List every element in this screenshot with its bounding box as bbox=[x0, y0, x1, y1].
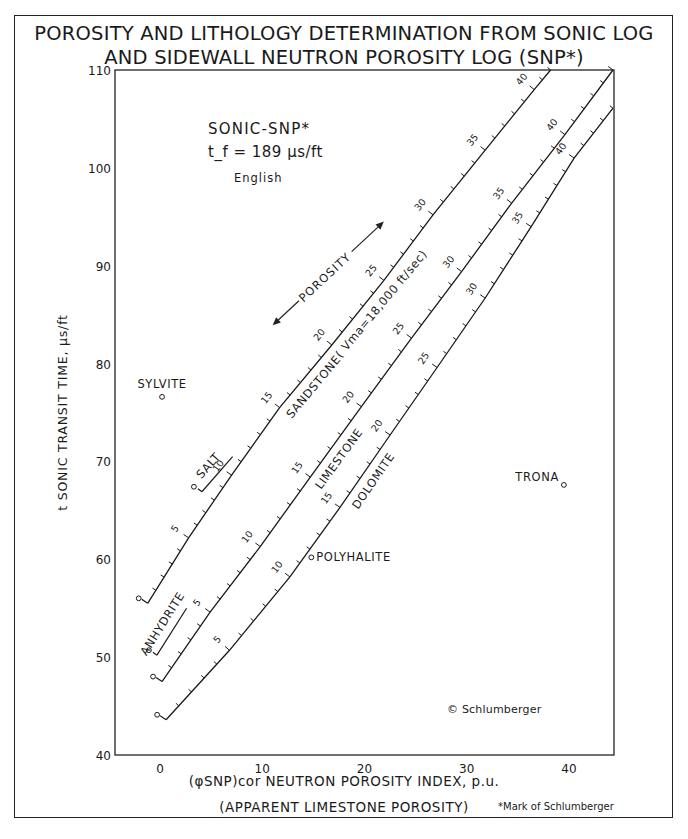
porosity-major-tick bbox=[480, 295, 485, 298]
porosity-major-tick bbox=[205, 609, 210, 613]
porosity-minor-tick bbox=[415, 392, 418, 394]
porosity-minor-tick bbox=[307, 547, 310, 549]
mineral-salt: SALT bbox=[192, 449, 233, 491]
porosity-major-tick bbox=[457, 268, 462, 272]
zero-porosity-foot bbox=[142, 599, 148, 603]
porosity-minor-tick bbox=[554, 183, 557, 185]
mineral-segment-foot bbox=[153, 652, 157, 655]
porosity-tick-label: 35 bbox=[464, 132, 480, 148]
porosity-minor-tick bbox=[511, 111, 514, 114]
porosity-minor-tick bbox=[406, 406, 409, 408]
curve-dolomite: 510152025303540DOLOMITE bbox=[155, 106, 613, 720]
curve-line-limestone bbox=[162, 70, 613, 682]
porosity-minor-tick bbox=[378, 377, 381, 379]
porosity-minor-tick bbox=[348, 418, 351, 420]
porosity-minor-tick bbox=[498, 214, 501, 216]
porosity-minor-tick bbox=[317, 461, 320, 463]
porosity-tick-label: 10 bbox=[269, 559, 285, 575]
porosity-minor-tick bbox=[545, 197, 548, 199]
porosity-minor-tick bbox=[451, 186, 454, 189]
porosity-minor-tick bbox=[448, 282, 451, 284]
porosity-minor-tick bbox=[267, 530, 270, 532]
porosity-minor-tick bbox=[377, 447, 380, 449]
porosity-arrow-label: POROSITY bbox=[296, 250, 354, 305]
porosity-minor-tick bbox=[410, 239, 413, 241]
porosity-minor-tick bbox=[398, 349, 401, 351]
porosity-minor-tick bbox=[194, 523, 197, 525]
porosity-tick-label: 20 bbox=[311, 326, 327, 342]
y-axis-title: t SONIC TRANSIT TIME, μs/ft bbox=[55, 314, 70, 511]
porosity-major-tick bbox=[480, 146, 485, 150]
porosity-minor-tick bbox=[492, 136, 495, 139]
porosity-major-tick bbox=[428, 211, 433, 215]
porosity-minor-tick bbox=[317, 533, 320, 535]
porosity-minor-tick bbox=[239, 633, 242, 636]
porosity-minor-tick bbox=[360, 304, 363, 307]
porosity-minor-tick bbox=[600, 81, 603, 83]
porosity-minor-tick bbox=[610, 106, 613, 108]
porosity-major-tick bbox=[335, 504, 340, 507]
porosity-major-tick bbox=[184, 534, 189, 537]
porosity-arrow-right-shaft bbox=[352, 224, 381, 251]
porosity-minor-tick bbox=[440, 199, 443, 202]
chart-svg: 405060708090100110t SONIC TRANSIT TIME, … bbox=[0, 0, 688, 839]
porosity-minor-tick bbox=[247, 557, 250, 559]
porosity-minor-tick bbox=[237, 570, 240, 572]
mineral-point-marker bbox=[160, 394, 165, 399]
porosity-major-tick bbox=[385, 432, 390, 435]
x-axis-title-text: (φSNP)cor NEUTRON POROSITY INDEX, p.u. bbox=[189, 773, 500, 789]
curve-label-sandstone: SANDSTONE bbox=[283, 352, 343, 420]
porosity-tick-label: 15 bbox=[258, 389, 274, 405]
porosity-minor-tick bbox=[472, 310, 475, 312]
porosity-major-tick bbox=[526, 223, 531, 226]
porosity-minor-tick bbox=[424, 379, 427, 381]
porosity-minor-tick bbox=[536, 211, 539, 213]
porosity-minor-tick bbox=[472, 161, 475, 164]
porosity-minor-tick bbox=[581, 106, 584, 108]
porosity-minor-tick bbox=[338, 432, 341, 434]
y-tick-label: 50 bbox=[96, 651, 111, 665]
porosity-minor-tick bbox=[297, 380, 300, 383]
mineral-point-label: POLYHALITE bbox=[316, 550, 391, 564]
porosity-tick-label: 35 bbox=[509, 210, 525, 226]
porosity-minor-tick bbox=[327, 519, 330, 521]
porosity-minor-tick bbox=[217, 597, 220, 599]
porosity-minor-tick bbox=[367, 462, 370, 464]
mineral-segment-foot bbox=[198, 489, 202, 492]
porosity-tick-label: 40 bbox=[544, 116, 560, 132]
porosity-minor-tick bbox=[357, 476, 360, 478]
porosity-major-tick bbox=[507, 199, 512, 203]
zero-porosity-foot bbox=[156, 678, 162, 682]
y-tick-label: 100 bbox=[88, 162, 111, 176]
porosity-minor-tick bbox=[350, 317, 353, 320]
porosity-minor-tick bbox=[238, 459, 241, 461]
porosity-minor-tick bbox=[540, 160, 543, 162]
porosity-minor-tick bbox=[308, 367, 311, 370]
porosity-tick-label: 25 bbox=[416, 350, 432, 366]
fluid-transit-label: t_f = 189 μs/ft bbox=[208, 143, 323, 162]
units-label: English bbox=[234, 171, 283, 185]
porosity-minor-tick bbox=[248, 446, 251, 448]
porosity-minor-tick bbox=[368, 391, 371, 393]
porosity-major-tick bbox=[357, 403, 362, 407]
y-tick-label: 40 bbox=[96, 749, 111, 763]
porosity-major-tick bbox=[432, 364, 437, 367]
porosity-major-tick bbox=[305, 474, 310, 478]
porosity-tick-label: 25 bbox=[390, 320, 406, 336]
porosity-arrow-left-shaft bbox=[276, 301, 299, 323]
porosity-minor-tick bbox=[176, 703, 179, 706]
porosity-minor-tick bbox=[388, 363, 391, 365]
porosity-minor-tick bbox=[530, 173, 533, 175]
porosity-minor-tick bbox=[581, 143, 584, 145]
porosity-minor-tick bbox=[461, 174, 464, 177]
mineral-point-label: TRONA bbox=[514, 470, 559, 484]
porosity-minor-tick bbox=[591, 93, 594, 95]
mineral-point-marker bbox=[309, 555, 314, 560]
porosity-minor-tick bbox=[391, 265, 394, 267]
porosity-minor-tick bbox=[370, 291, 373, 294]
porosity-minor-tick bbox=[297, 489, 300, 491]
porosity-major-tick bbox=[285, 573, 290, 577]
porosity-tick-label: 10 bbox=[239, 529, 255, 545]
porosity-major-tick bbox=[227, 472, 232, 475]
mineral-polyhalite: POLYHALITE bbox=[309, 550, 391, 564]
